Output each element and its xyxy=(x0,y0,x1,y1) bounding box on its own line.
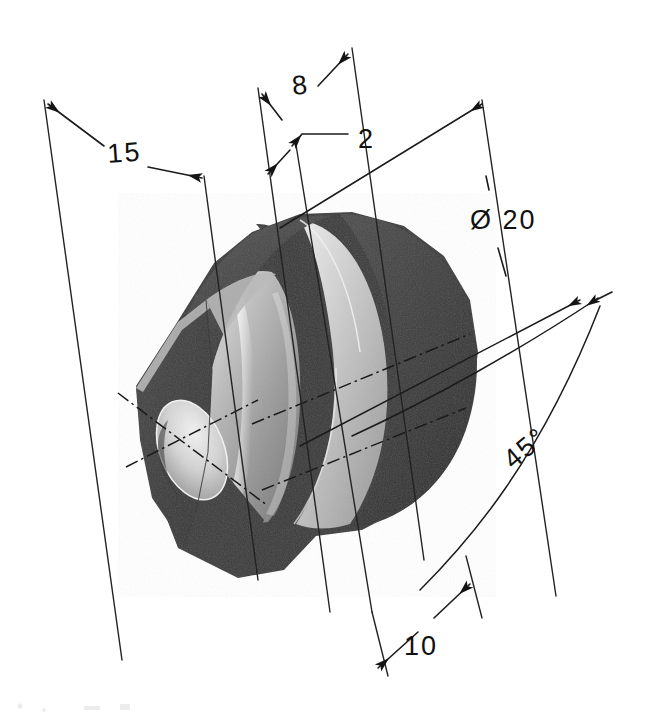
ext-line-15-a xyxy=(44,100,122,660)
drawing-sheet: 15 8 2 Ø 20 xyxy=(0,0,660,720)
leader-15-lower xyxy=(148,167,202,178)
technical-drawing-canvas: 15 8 2 Ø 20 xyxy=(0,0,660,720)
dimension-10[interactable]: 10 xyxy=(372,556,482,676)
dimension-label-dia20: Ø 20 xyxy=(470,205,537,235)
dimension-label-2: 2 xyxy=(358,124,375,154)
leader-15-upper xyxy=(48,104,104,146)
leader-8-right xyxy=(318,54,348,86)
dimension-label-8: 8 xyxy=(290,69,310,101)
leader-2-arrow-left xyxy=(268,150,290,174)
leader-dia20-tick xyxy=(486,176,489,190)
leader-10-right xyxy=(434,584,470,618)
dimension-label-45deg: 45° xyxy=(498,422,553,475)
ext-line-10-b xyxy=(466,556,482,618)
dimension-label-10: 10 xyxy=(404,631,438,661)
leader-8-left xyxy=(262,94,282,120)
leader-45-vertex xyxy=(596,292,612,300)
leader-2-horizontal xyxy=(292,134,348,146)
part-3d-render xyxy=(136,212,478,578)
scan-artifacts xyxy=(18,704,131,713)
dimension-label-15: 15 xyxy=(106,137,142,169)
dim-line-dia20-upper xyxy=(280,104,482,228)
